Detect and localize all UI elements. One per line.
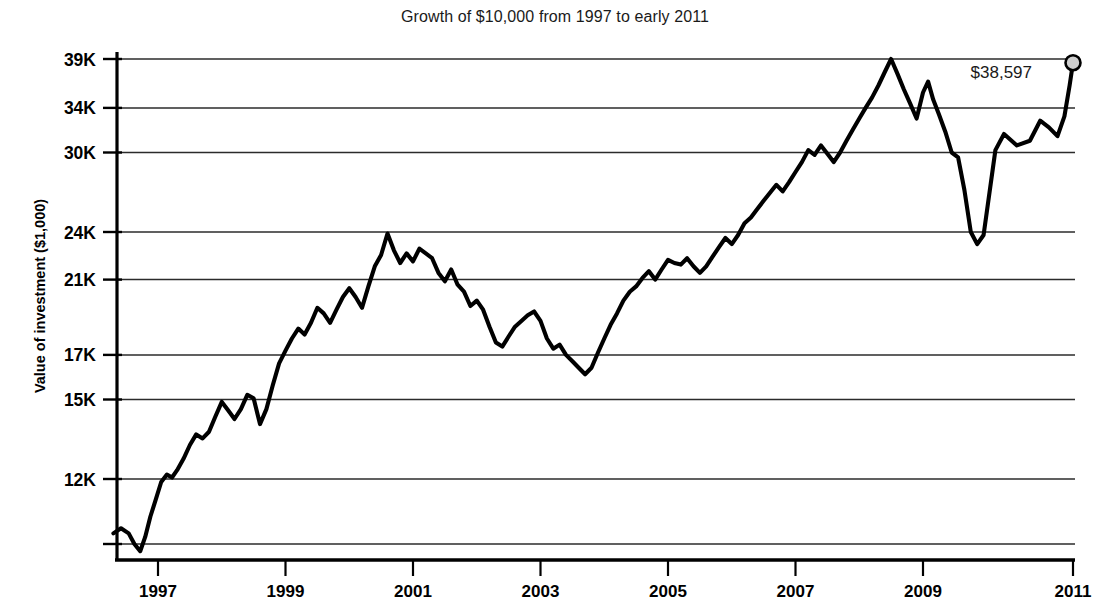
y-axis-tick-label: 17K [64, 345, 96, 365]
figure-bottom-edge [0, 612, 1110, 616]
plot-area: 12K15K17K21K24K30K34K39K 199719992001200… [0, 0, 1110, 616]
y-axis-ticks-group: 12K15K17K21K24K30K34K39K [64, 50, 122, 545]
y-axis-tick-label: 21K [64, 270, 96, 290]
y-axis-tick-label: 24K [64, 223, 96, 243]
y-axis-tick-label: 39K [64, 50, 96, 70]
chart-container: Growth of $10,000 from 1997 to early 201… [0, 0, 1110, 616]
x-axis-tick-label: 2007 [777, 582, 815, 601]
x-axis-tick-label: 1997 [139, 582, 177, 601]
x-axis-tick-label: 2011 [1055, 582, 1092, 601]
gridlines-group [117, 59, 1075, 544]
x-axis-tick-label: 2001 [394, 582, 432, 601]
end-point-marker [1066, 55, 1081, 70]
x-axis-tick-label: 2005 [649, 582, 687, 601]
value-annotation-label: $38,597 [971, 63, 1032, 82]
x-axis-tick-label: 1999 [267, 582, 305, 601]
y-axis-tick-label: 34K [64, 98, 96, 118]
y-axis-tick-label: 12K [64, 470, 96, 490]
y-axis-tick-label: 30K [64, 143, 96, 163]
x-axis-tick-label: 2003 [522, 582, 560, 601]
x-axis-tick-label: 2009 [904, 582, 942, 601]
x-axis-ticks-group: 19971999200120032005200720092011 [139, 560, 1091, 601]
data-series-line [113, 59, 1073, 551]
y-axis-tick-label: 15K [64, 390, 96, 410]
